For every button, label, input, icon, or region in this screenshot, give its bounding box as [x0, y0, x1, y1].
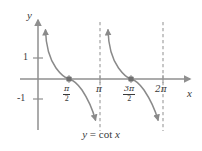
- y-tick-label-neg-1: -1: [17, 93, 25, 103]
- x-tick-label-2pi: 2π: [155, 85, 167, 94]
- cot-branch-2: [108, 30, 158, 120]
- pi-over-2-denominator: 2: [63, 95, 70, 103]
- x-tick-label-pi-over-2: π 2: [63, 85, 70, 103]
- marker-pi-over-2: [66, 76, 71, 81]
- cotangent-graph-figure: y x 1 -1 π 2 π 3π 2 2π y = cot x: [0, 0, 202, 151]
- cot-branch-1: [46, 30, 96, 120]
- caption-equals: =: [90, 128, 96, 140]
- y-axis-label: y: [27, 10, 32, 21]
- caption-function: cot: [99, 128, 112, 140]
- y-tick-label-1: 1: [23, 52, 28, 62]
- x-tick-label-3pi-over-2: 3π 2: [123, 85, 135, 103]
- caption-variable: x: [115, 128, 120, 140]
- three-pi-over-2-denominator: 2: [123, 95, 135, 103]
- two-pi-text: 2π: [155, 84, 167, 94]
- x-axis-label: x: [187, 88, 192, 99]
- marker-3pi-over-2: [128, 76, 133, 81]
- caption-y: y: [82, 128, 87, 140]
- figure-caption: y = cot x: [0, 128, 202, 140]
- x-tick-label-pi: π: [96, 85, 102, 94]
